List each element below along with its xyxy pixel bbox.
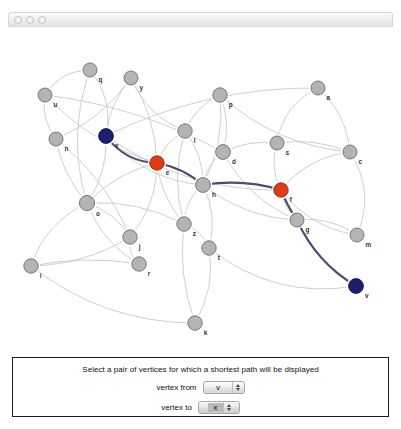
vertex-label-x: x xyxy=(115,142,119,149)
vertex-label-v: v xyxy=(365,292,369,299)
graph-vertex[interactable]: r xyxy=(131,256,151,278)
vertex-label-k: k xyxy=(204,329,208,336)
vertex-circle-p[interactable] xyxy=(213,88,227,102)
graph-edge xyxy=(77,70,90,203)
vertex-label-f: f xyxy=(290,196,293,203)
graph-edge xyxy=(56,139,87,203)
chevron-up-icon xyxy=(227,404,231,407)
vertex-label-y: y xyxy=(140,84,144,92)
graph-vertex[interactable]: u xyxy=(37,87,58,108)
vertex-from-label: vertex from xyxy=(156,383,196,392)
vertex-label-u: u xyxy=(54,101,58,108)
graph-edge xyxy=(277,88,318,143)
vertex-circle-r[interactable] xyxy=(132,257,146,271)
vertex-label-n: n xyxy=(65,145,69,152)
vertex-label-s: s xyxy=(286,149,290,156)
vertex-label-a: a xyxy=(327,94,331,101)
graph-vertex[interactable]: l xyxy=(177,123,196,145)
vertex-label-e: e xyxy=(166,169,170,176)
vertex-label-r: r xyxy=(148,270,151,277)
chevron-down-icon xyxy=(236,388,240,391)
graph-edge xyxy=(195,248,211,323)
vertex-label-m: m xyxy=(366,241,372,248)
graph-vertex[interactable]: x xyxy=(97,127,119,149)
vertex-circle-y[interactable] xyxy=(124,71,138,85)
vertex-label-g: g xyxy=(306,226,310,234)
vertex-label-i: i xyxy=(40,272,42,279)
graph-edge xyxy=(157,163,184,224)
chevron-down-icon xyxy=(227,408,231,411)
graph-vertex[interactable]: p xyxy=(212,87,233,110)
graph-vertex[interactable]: c xyxy=(342,144,363,165)
vertex-label-d: d xyxy=(232,158,236,165)
graph-vertex[interactable]: k xyxy=(187,315,208,337)
vertex-circle-c[interactable] xyxy=(343,145,357,159)
vertex-circle-t[interactable] xyxy=(202,241,216,255)
app-window: quypanlxdscehfogjztmrivk Select a pair o… xyxy=(0,0,401,429)
zoom-button[interactable] xyxy=(38,16,46,24)
vertex-circle-q[interactable] xyxy=(83,63,97,77)
graph-vertex[interactable]: v xyxy=(347,277,369,299)
graph-vertex[interactable]: f xyxy=(273,182,293,204)
close-button[interactable] xyxy=(14,16,22,24)
graph-edge xyxy=(130,163,157,237)
vertex-circle-s[interactable] xyxy=(270,136,284,150)
graph-vertex[interactable]: o xyxy=(78,194,100,216)
vertex-circle-v[interactable] xyxy=(349,279,364,294)
vertex-label-q: q xyxy=(99,76,103,84)
vertex-circle-u[interactable] xyxy=(38,88,52,102)
vertex-from-value: v xyxy=(204,383,232,392)
graph-vertex[interactable]: q xyxy=(82,62,103,84)
vertex-from-row: vertex from v xyxy=(13,381,388,394)
panel-instruction: Select a pair of vertices for which a sh… xyxy=(13,365,388,374)
vertex-circle-h[interactable] xyxy=(196,178,211,193)
vertex-circle-e[interactable] xyxy=(150,156,164,170)
vertex-label-h: h xyxy=(212,191,216,198)
vertex-circle-f[interactable] xyxy=(274,183,288,197)
graph-canvas[interactable]: quypanlxdscehfogjztmrivk xyxy=(0,40,401,350)
vertex-circle-k[interactable] xyxy=(188,316,202,330)
graph-vertex[interactable]: m xyxy=(349,227,372,248)
graph-edge xyxy=(350,152,365,235)
vertex-circle-m[interactable] xyxy=(350,228,364,242)
vertex-circle-i[interactable] xyxy=(24,259,38,273)
vertex-from-select[interactable]: v xyxy=(203,381,245,394)
window-controls xyxy=(14,16,46,24)
minimize-button[interactable] xyxy=(26,16,34,24)
vertex-circle-l[interactable] xyxy=(178,124,192,138)
vertex-circle-x[interactable] xyxy=(99,129,114,144)
vertex-circle-n[interactable] xyxy=(49,132,63,146)
vertex-circle-d[interactable] xyxy=(216,145,231,160)
vertex-circle-g[interactable] xyxy=(290,213,304,227)
vertex-circle-z[interactable] xyxy=(177,217,191,231)
graph-vertex[interactable]: s xyxy=(269,135,290,156)
window-title-bar xyxy=(8,12,393,27)
vertex-circle-o[interactable] xyxy=(79,195,94,210)
graph-vertex[interactable]: d xyxy=(214,143,236,165)
graph-edge xyxy=(209,248,356,289)
vertex-to-stepper-icon[interactable] xyxy=(223,402,234,413)
vertices-layer: quypanlxdscehfogjztmrivk xyxy=(23,62,372,336)
graph-edge xyxy=(87,203,184,224)
graph-edge xyxy=(31,203,87,266)
vertex-to-select[interactable]: x xyxy=(198,401,240,414)
vertex-label-l: l xyxy=(194,137,196,144)
graph-vertex[interactable]: h xyxy=(194,176,216,198)
vertex-to-row: vertex to x xyxy=(13,401,388,414)
graph-edge xyxy=(203,95,221,185)
control-panel: Select a pair of vertices for which a sh… xyxy=(12,357,389,417)
graph-vertex[interactable]: a xyxy=(310,80,331,101)
graph-vertex[interactable]: j xyxy=(122,229,141,252)
shortest-path-edge xyxy=(203,183,281,190)
vertex-circle-a[interactable] xyxy=(311,81,325,95)
vertex-to-label: vertex to xyxy=(161,403,192,412)
graph-vertex[interactable]: y xyxy=(123,70,144,92)
vertex-label-j: j xyxy=(138,243,141,251)
vertex-label-z: z xyxy=(193,230,196,237)
graph-vertex[interactable]: z xyxy=(176,216,196,238)
graph-edge xyxy=(87,136,106,203)
graph-vertex[interactable]: i xyxy=(23,258,42,280)
vertex-label-p: p xyxy=(229,101,233,109)
vertex-circle-j[interactable] xyxy=(123,230,137,244)
vertex-from-stepper-icon[interactable] xyxy=(232,382,243,393)
